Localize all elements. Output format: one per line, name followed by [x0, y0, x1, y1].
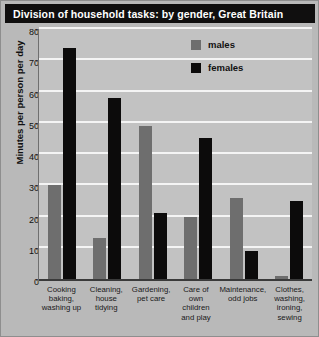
bar-females: [199, 138, 212, 279]
bar-females: [154, 213, 167, 279]
bar-males: [93, 238, 106, 279]
bar-males: [48, 185, 61, 279]
y-tick-label: 80: [9, 27, 39, 37]
y-tick-label: 10: [9, 246, 39, 256]
page-title: Division of household tasks: by gender, …: [13, 8, 283, 20]
legend-swatch-females: [191, 63, 201, 73]
bar-groups: [39, 29, 312, 279]
legend-item-males: males: [191, 39, 243, 50]
x-axis-labels: Cookingbaking,washing upCleaning,houseti…: [39, 285, 312, 335]
chart-legend: malesfemales: [191, 39, 243, 73]
x-tick-label: Clothes,washing,ironing,sewing: [267, 285, 312, 335]
legend-item-females: females: [191, 62, 243, 73]
x-tick-label: Cleaning,housetidying: [84, 285, 129, 335]
chart-figure: Division of household tasks: by gender, …: [0, 0, 319, 337]
x-tick-label: Care ofown childrenand play: [174, 285, 219, 335]
y-tick-label: 20: [9, 215, 39, 225]
y-tick-label: 40: [9, 152, 39, 162]
bar-females: [290, 201, 303, 279]
x-tick-label: Gardening,pet care: [129, 285, 174, 335]
chart-title-banner: Division of household tasks: by gender, …: [5, 4, 315, 23]
x-tick-label: Maintenance,odd jobs: [218, 285, 267, 335]
plot-area: [39, 29, 312, 281]
bar-males: [184, 217, 197, 280]
legend-swatch-males: [191, 40, 201, 50]
bar-group: [39, 29, 85, 279]
bar-group: [85, 29, 131, 279]
bar-females: [63, 48, 76, 279]
y-tick-label: 30: [9, 183, 39, 193]
bar-males: [230, 198, 243, 279]
y-tick-label: 0: [9, 277, 39, 287]
bar-males: [139, 126, 152, 279]
y-tick-label: 50: [9, 121, 39, 131]
y-tick-label: 60: [9, 90, 39, 100]
legend-label-males: males: [208, 39, 235, 50]
y-tick-label: 70: [9, 58, 39, 68]
bar-group: [130, 29, 176, 279]
y-axis-ticks: 80706050403020100: [1, 29, 39, 283]
legend-label-females: females: [208, 62, 243, 73]
x-axis-line: [39, 279, 312, 281]
bar-females: [108, 98, 121, 279]
x-tick-label: Cookingbaking,washing up: [39, 285, 84, 335]
bar-females: [245, 251, 258, 279]
bar-group: [267, 29, 313, 279]
